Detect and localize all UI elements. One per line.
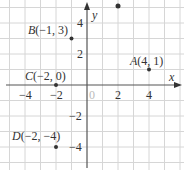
clipped-point — [116, 4, 121, 9]
point-a — [147, 68, 151, 72]
y-axis-label: y — [92, 9, 97, 21]
point-d-label: D(−2, −4) — [12, 130, 60, 142]
point-c-label: C(−2, 0) — [25, 70, 66, 82]
y-tick-neg2: −2 — [69, 110, 82, 122]
x-tick-neg2: −2 — [50, 89, 63, 101]
point-a-coords: (4, 1) — [137, 54, 163, 68]
x-axis-arrow-icon — [174, 82, 182, 88]
y-tick-4: 4 — [77, 17, 83, 29]
y-tick-2: 2 — [77, 48, 83, 60]
point-c-name: C — [25, 69, 33, 83]
origin-label: 0 — [89, 89, 95, 101]
x-tick-2: 2 — [115, 89, 121, 101]
point-d — [54, 145, 58, 149]
point-c — [54, 83, 58, 87]
point-b-label: B(−1, 3) — [28, 24, 68, 36]
y-tick-neg4: −4 — [69, 141, 82, 153]
y-axis-arrow-icon — [84, 2, 90, 10]
point-d-coords: (−2, −4) — [21, 129, 61, 143]
point-b-coords: (−1, 3) — [35, 23, 68, 37]
point-d-name: D — [12, 129, 21, 143]
point-b — [70, 37, 74, 41]
x-tick-4: 4 — [146, 89, 152, 101]
point-a-label: A(4, 1) — [130, 55, 163, 67]
x-tick-neg4: −4 — [19, 89, 32, 101]
x-axis-label: x — [169, 71, 174, 83]
point-c-coords: (−2, 0) — [33, 69, 66, 83]
